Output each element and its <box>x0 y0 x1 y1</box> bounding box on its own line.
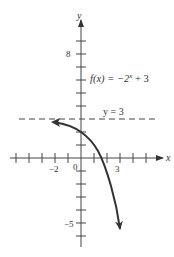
function-label: f(x) = −2x + 3 <box>90 72 149 85</box>
x-tick-label-neg2: −2 <box>49 164 59 174</box>
y-tick-label-8: 8 <box>66 49 71 59</box>
asymptote-label: y = 3 <box>103 106 124 117</box>
y-axis-label: y <box>76 10 82 21</box>
x-tick-label-0: 0 <box>73 162 78 172</box>
y-tick-label-neg5: −5 <box>64 219 74 229</box>
function-graph: y x 8 −5 −2 0 3 f(x) = −2x + 3 y = 3 <box>0 0 174 257</box>
function-curve <box>56 123 120 230</box>
x-axis-label: x <box>165 152 171 163</box>
x-tick-label-3: 3 <box>115 164 120 174</box>
